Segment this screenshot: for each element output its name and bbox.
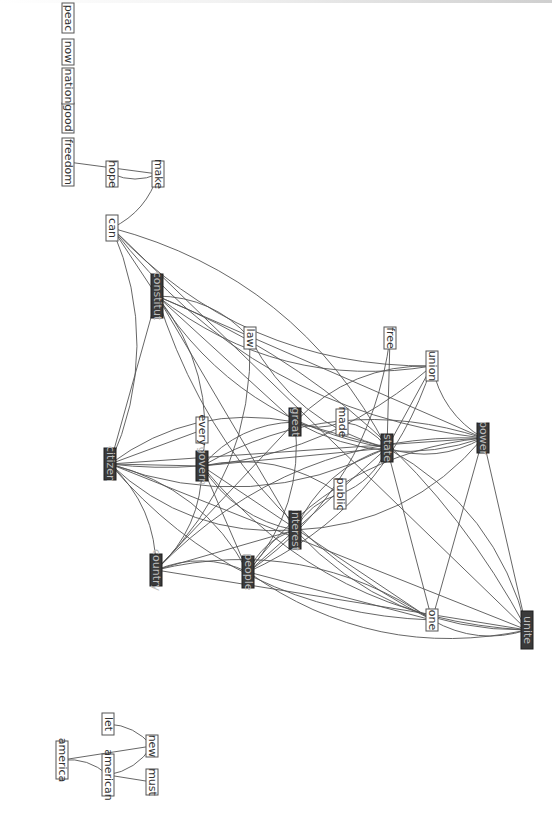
- node-label: great: [289, 407, 302, 437]
- node-label: hope: [106, 160, 119, 188]
- edge-people-unite: [248, 572, 527, 639]
- edge-constitut-great: [157, 296, 295, 422]
- node-unite[interactable]: unite: [521, 611, 534, 649]
- edge-union-people: [248, 366, 432, 572]
- node-good[interactable]: good: [62, 103, 75, 133]
- edge-citizen-people: [110, 464, 248, 572]
- edge-can-constitut: [112, 228, 157, 296]
- edge-union-great: [295, 366, 432, 422]
- node-label: unite: [521, 616, 534, 644]
- node-one[interactable]: one: [426, 609, 439, 631]
- node-must[interactable]: must: [146, 768, 159, 796]
- node-new[interactable]: new: [146, 735, 159, 758]
- node-citizen[interactable]: citizen: [104, 446, 117, 482]
- node-label: can: [106, 218, 119, 238]
- node-people[interactable]: people: [242, 553, 255, 591]
- node-every[interactable]: every: [196, 414, 209, 446]
- node-label: country: [150, 549, 163, 592]
- edge-layer: [62, 162, 527, 782]
- node-freedom[interactable]: freedom: [62, 138, 75, 186]
- node-label: interest: [289, 509, 302, 552]
- node-free[interactable]: free: [384, 327, 397, 349]
- node-label: state: [381, 434, 394, 462]
- edge-power-one: [432, 438, 483, 620]
- node-interest[interactable]: interest: [289, 509, 302, 552]
- node-nation[interactable]: nation: [62, 68, 75, 104]
- node-label: good: [62, 104, 75, 131]
- node-label: new: [146, 735, 159, 758]
- node-law[interactable]: law: [244, 327, 257, 349]
- node-make[interactable]: make: [152, 159, 165, 189]
- node-public[interactable]: public: [334, 477, 347, 510]
- node-label: people: [242, 553, 255, 591]
- edge-govern-unite: [202, 466, 527, 630]
- node-label: nation: [62, 69, 75, 104]
- node-peace[interactable]: peac: [62, 3, 75, 33]
- node-govern[interactable]: govern: [196, 447, 209, 485]
- edge-citizen-unite: [110, 464, 527, 630]
- node-let[interactable]: let: [102, 713, 115, 735]
- node-country[interactable]: country: [150, 549, 163, 592]
- edge-constitut-state: [157, 296, 387, 448]
- node-can[interactable]: can: [106, 215, 119, 241]
- node-label: govern: [196, 447, 209, 485]
- node-label: power: [477, 421, 490, 455]
- edge-state-people: [248, 448, 387, 572]
- edge-people-one: [248, 572, 432, 620]
- node-label: freedom: [62, 139, 75, 185]
- node-label: law: [244, 329, 257, 348]
- node-america[interactable]: america: [56, 738, 69, 783]
- node-label: american: [102, 749, 115, 801]
- node-label: every: [196, 414, 209, 446]
- node-american[interactable]: american: [102, 749, 115, 801]
- node-label: let: [102, 717, 115, 732]
- node-made[interactable]: made: [336, 406, 349, 437]
- node-now[interactable]: now: [62, 39, 75, 65]
- node-label: make: [152, 159, 165, 189]
- node-label: public: [334, 477, 347, 510]
- node-union[interactable]: union: [426, 351, 439, 382]
- node-label: one: [426, 610, 439, 631]
- node-label: america: [56, 738, 69, 783]
- edge-can-citizen: [110, 228, 137, 464]
- node-great[interactable]: great: [289, 407, 302, 437]
- node-state[interactable]: state: [381, 434, 394, 462]
- node-power[interactable]: power: [477, 421, 490, 455]
- node-constitut[interactable]: constitut: [151, 272, 164, 321]
- node-label: free: [384, 327, 397, 349]
- node-label: made: [336, 406, 349, 437]
- node-label: union: [426, 351, 439, 382]
- network-diagram: freedomgoodnationnowpeachopemakecanconst…: [0, 0, 552, 814]
- edge-power-unite: [483, 438, 527, 630]
- edge-country-one: [156, 559, 432, 620]
- edge-constitut-citizen: [110, 296, 157, 464]
- node-label: now: [62, 41, 75, 64]
- node-label: constitut: [151, 272, 164, 321]
- node-label: must: [146, 768, 159, 796]
- node-hope[interactable]: hope: [106, 160, 119, 188]
- node-label: citizen: [104, 446, 117, 482]
- edge-law-state: [250, 338, 387, 448]
- node-label: peac: [62, 5, 75, 32]
